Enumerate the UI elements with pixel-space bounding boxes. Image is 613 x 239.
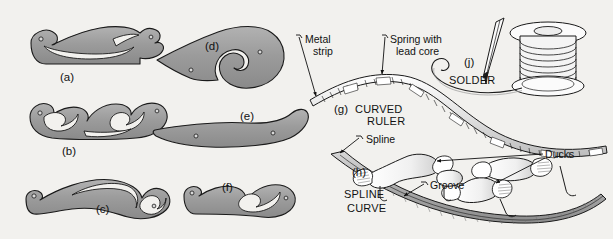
callout-metal-strip-line2: strip — [313, 45, 333, 57]
figure-label-h: (h) — [352, 166, 366, 178]
french-curve-d-hole-left — [189, 68, 193, 72]
callout-spline: Spline — [366, 133, 395, 145]
french-curve-f-hole-right — [284, 196, 288, 200]
drafting-instruments-plate: (a) (b) (c) (d) (e) (f) — [0, 0, 613, 239]
spline-curve-caption-line1: SPLINE — [344, 188, 384, 200]
french-curve-f-hole-left — [190, 191, 194, 195]
french-curve-b-hole-right — [155, 109, 159, 113]
french-curve-c-hole-left — [32, 194, 36, 198]
callout-groove: Groove — [430, 179, 465, 191]
figure-label-b: (b) — [62, 145, 76, 157]
curved-ruler-caption-line2: RULER — [367, 115, 405, 127]
french-curve-e-hole-right — [271, 131, 275, 135]
callout-spring-line2: lead core — [396, 45, 439, 57]
solder-caption: SOLDER — [449, 74, 495, 86]
french-curve-d-hole-right — [258, 50, 262, 54]
figure-label-e: (e) — [240, 110, 254, 122]
spool-hub-hole — [534, 27, 562, 36]
callout-metal-strip-line1: Metal — [305, 33, 331, 45]
spline-curve-caption-line2: CURVE — [347, 202, 386, 214]
french-curve-a-hole-right — [149, 35, 153, 39]
callout-ducks: Ducks — [545, 148, 574, 160]
figure-label-a: (a) — [60, 71, 74, 83]
curved-ruler-caption-line1: CURVED — [355, 103, 402, 115]
figure-label-c: (c) — [96, 203, 110, 215]
french-curve-a-hole-left — [39, 37, 43, 41]
french-curve-e-hole-left — [194, 134, 198, 138]
french-curve-b-hole-left — [38, 111, 42, 115]
figure-label-d: (d) — [205, 40, 219, 52]
solder-spool — [510, 22, 586, 96]
french-curve-c-hole-right — [152, 204, 156, 208]
figure-label-f: (f) — [222, 181, 233, 193]
callout-spring-line1: Spring with — [390, 33, 442, 45]
figure-label-j: (j) — [464, 56, 474, 68]
figure-label-g: (g) — [334, 103, 348, 115]
